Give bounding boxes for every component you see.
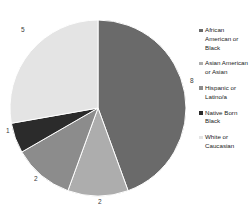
slice-value-label-native-born-black: 1 — [6, 128, 10, 135]
legend-item: White or Caucasian — [199, 133, 250, 151]
pie-plot-area: 8 2 2 1 5 — [0, 0, 200, 215]
legend-swatch-icon — [199, 86, 203, 90]
slice-value-label-african-american: 8 — [190, 78, 194, 85]
legend-item: Asian American or Asian — [199, 59, 250, 77]
legend-swatch-icon — [199, 62, 203, 66]
legend-item: Native Born Black — [199, 109, 250, 127]
pie-slices — [10, 20, 186, 196]
legend-item: Hispanic or Latino/a — [199, 84, 250, 102]
slice-value-label-hispanic: 2 — [34, 176, 38, 183]
slice-value-label-asian: 2 — [98, 199, 102, 206]
pie-slice — [10, 20, 98, 123]
pie-chart-figure: 8 2 2 1 5 African American or BlackAsian… — [0, 0, 250, 215]
legend-item-label: Native Born Black — [205, 109, 250, 127]
legend-item-label: Hispanic or Latino/a — [205, 84, 250, 102]
legend-swatch-icon — [199, 136, 203, 140]
legend-item-label: African American or Black — [205, 26, 250, 52]
chart-legend: African American or BlackAsian American … — [199, 26, 250, 158]
legend-item-label: Asian American or Asian — [205, 59, 250, 77]
legend-swatch-icon — [199, 111, 203, 115]
pie-svg — [0, 0, 200, 215]
legend-item: African American or Black — [199, 26, 250, 52]
slice-value-label-white-caucasian: 5 — [21, 27, 25, 34]
legend-swatch-icon — [199, 29, 203, 33]
legend-item-label: White or Caucasian — [205, 133, 250, 151]
